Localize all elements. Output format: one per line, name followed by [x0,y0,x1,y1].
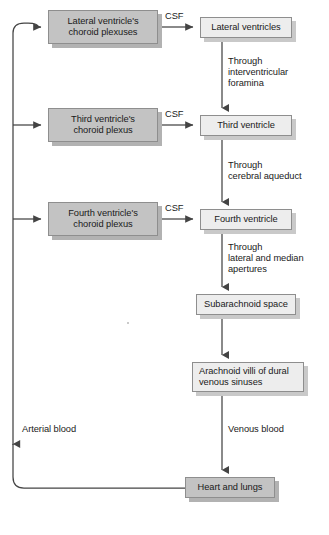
node-lateral-ventricles[interactable]: Lateral ventricles [200,17,292,38]
edge-label-csf-2: CSF [165,109,183,120]
node-fourth-ventricle[interactable]: Fourth ventricle [200,209,292,230]
node-arachnoid-villi[interactable]: Arachnoid villi of dural venous sinuses [192,362,304,392]
node-arachnoid-villi-label: Arachnoid villi of dural venous sinuses [193,366,293,389]
node-heart-and-lungs-label: Heart and lungs [194,482,267,493]
scan-speck [127,322,129,324]
node-third-choroid[interactable]: Third ventricle's choroid plexus [48,108,158,142]
node-third-ventricle[interactable]: Third ventricle [200,115,292,136]
node-fourth-choroid-label: Fourth ventricle's choroid plexus [64,208,142,231]
node-subarachnoid-space-label: Subarachnoid space [200,299,292,310]
edge-label-interventricular-foramina: Through interventricular foramina [228,56,288,90]
node-fourth-ventricle-label: Fourth ventricle [210,214,281,225]
node-lateral-choroid-label: Lateral ventricle's choroid plexuses [63,16,142,39]
edge-label-csf-1: CSF [165,11,183,22]
edge-label-arterial-blood: Arterial blood [22,424,76,435]
node-heart-and-lungs[interactable]: Heart and lungs [185,477,275,498]
edge-label-csf-3: CSF [165,203,183,214]
edge-return-to-lateral-choroid [13,23,41,445]
edge-label-cerebral-aqueduct: Through cerebral aqueduct [228,160,302,182]
node-subarachnoid-space[interactable]: Subarachnoid space [196,294,296,315]
node-fourth-choroid[interactable]: Fourth ventricle's choroid plexus [48,202,158,236]
edge-label-lateral-median-apertures: Through lateral and median apertures [228,242,304,276]
node-third-ventricle-label: Third ventricle [213,120,279,131]
edge-return-trunk [13,444,185,488]
node-lateral-ventricles-label: Lateral ventricles [207,22,284,33]
flowchart-canvas: Lateral ventricle's choroid plexuses Lat… [0,0,329,535]
node-lateral-choroid[interactable]: Lateral ventricle's choroid plexuses [48,10,158,44]
node-third-choroid-label: Third ventricle's choroid plexus [67,114,139,137]
edge-label-venous-blood: Venous blood [228,424,284,435]
